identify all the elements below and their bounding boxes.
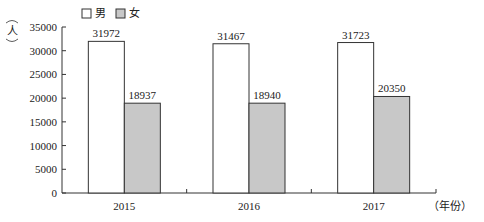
y-unit-label: 人 [7,25,18,38]
y-tick-label: 30000 [30,45,58,57]
bar-female-2016 [249,103,285,193]
y-tick-label: 35000 [30,21,58,33]
y-axis-unit: 人 [6,21,18,42]
bar-female-2017 [374,96,410,193]
x-category-label: 2015 [113,200,136,212]
x-category-label: 2016 [238,200,261,212]
legend-swatch-male [82,9,91,18]
legend-label-male: 男 [95,7,106,20]
y-tick-label: 10000 [30,140,58,152]
bar-male-2016 [213,44,249,193]
x-unit-label: （年份） [428,199,472,213]
legend-swatch-female [116,9,125,18]
x-category-label: 2017 [363,200,386,212]
legend: 男女 [82,6,140,20]
bar-value-label: 31723 [342,29,370,41]
bar-chart: 男女 人 05000100001500020000250003000035000… [0,0,484,222]
y-tick-label: 25000 [30,68,58,80]
y-axis: 05000100001500020000250003000035000 [30,21,67,199]
bar-value-label: 18940 [253,89,281,101]
legend-label-female: 女 [129,6,140,20]
bar-value-label: 18937 [129,89,157,101]
y-tick-label: 5000 [35,163,58,175]
bar-value-label: 31972 [93,27,121,39]
y-tick-label: 20000 [30,92,58,104]
bar-value-label: 20350 [378,82,406,94]
bar-value-label: 31467 [217,30,245,42]
bar-male-2015 [88,41,124,193]
y-tick-label: 0 [52,187,58,199]
bar-male-2017 [338,43,374,193]
bar-female-2015 [124,103,160,193]
bars: 319721893731467189403172320350 [88,27,409,193]
y-tick-label: 15000 [30,116,58,128]
